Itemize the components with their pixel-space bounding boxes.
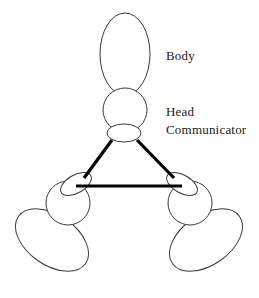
label-body: Body (166, 48, 195, 63)
label-head: Head (166, 104, 195, 119)
robot-team-diagram: Body Head Communicator (0, 0, 259, 298)
comm-link-top-left[interactable] (84, 140, 112, 178)
robot-top[interactable] (100, 13, 150, 142)
figure-root: Body Head Communicator (0, 0, 259, 298)
comm-link-top-right[interactable] (137, 140, 174, 178)
communication-link-triangle (76, 140, 182, 186)
robot-top-body-ellipse[interactable] (100, 13, 150, 95)
diagram-labels: Body Head Communicator (166, 48, 247, 137)
robot-top-communicator-ellipse[interactable] (107, 124, 141, 142)
label-communicator: Communicator (166, 122, 247, 137)
